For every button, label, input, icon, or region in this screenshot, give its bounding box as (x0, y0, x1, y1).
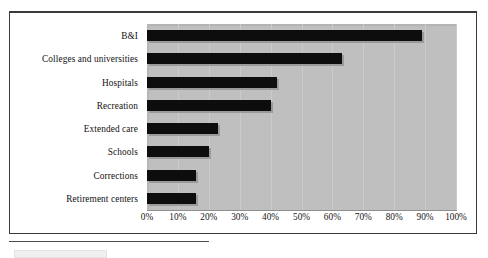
bar (147, 77, 277, 88)
plot-area (147, 24, 456, 210)
category-label: B&I (10, 31, 138, 41)
bar (147, 170, 196, 181)
x-tick-label: 100% (445, 212, 467, 223)
gridline-90 (425, 24, 426, 210)
x-tick-label: 10% (169, 212, 186, 223)
bar (147, 146, 209, 157)
x-tick-label: 70% (355, 212, 372, 223)
x-tick-label: 80% (386, 212, 403, 223)
gridline-60 (332, 24, 333, 210)
scan-artifact-box (14, 250, 107, 258)
category-label: Corrections (10, 171, 138, 181)
bar-chart: B&IColleges and universitiesHospitalsRec… (10, 13, 478, 236)
bar (147, 53, 342, 64)
category-label: Extended care (10, 124, 138, 134)
gridline-80 (394, 24, 395, 210)
x-tick-label: 30% (231, 212, 248, 223)
gridline-100 (456, 24, 457, 210)
bar (147, 193, 196, 204)
category-label: Hospitals (10, 78, 138, 88)
x-axis-line (147, 210, 457, 211)
figure-frame: B&IColleges and universitiesHospitalsRec… (9, 11, 477, 234)
category-label: Retirement centers (10, 194, 138, 204)
category-label: Schools (10, 147, 138, 157)
horizontal-rule (9, 241, 209, 242)
x-tick-label: 90% (417, 212, 434, 223)
bar (147, 100, 271, 111)
gridline-70 (363, 24, 364, 210)
x-tick-label: 60% (324, 212, 341, 223)
x-tick-label: 20% (200, 212, 217, 223)
gridline-40 (271, 24, 272, 210)
category-axis-labels: B&IColleges and universitiesHospitalsRec… (10, 24, 138, 210)
x-tick-label: 0% (141, 212, 153, 223)
x-axis-tick-labels: 0%10%20%30%40%50%60%70%80%90%100% (10, 212, 478, 228)
x-tick-label: 40% (262, 212, 279, 223)
category-label: Recreation (10, 101, 138, 111)
gridline-30 (240, 24, 241, 210)
bar (147, 30, 422, 41)
bar (147, 123, 218, 134)
category-label: Colleges and universities (10, 54, 138, 64)
x-tick-label: 50% (293, 212, 310, 223)
gridline-20 (209, 24, 210, 210)
gridline-50 (302, 24, 303, 210)
